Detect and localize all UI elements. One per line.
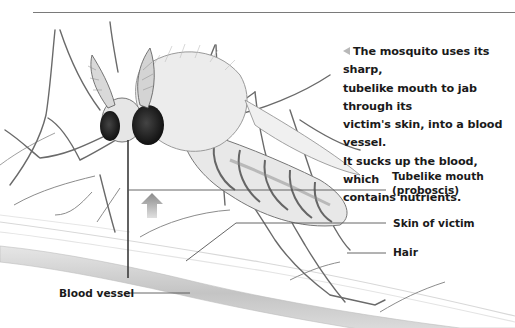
label-proboscis-line1: Tubelike mouth bbox=[392, 170, 484, 182]
mosquito-diagram: The mosquito uses its sharp, tubelike mo… bbox=[0, 0, 515, 328]
label-proboscis: Tubelike mouth (proboscis) bbox=[392, 169, 484, 197]
caption-line-3: victim's skin, into a blood vessel. bbox=[343, 118, 502, 149]
label-proboscis-line2: (proboscis) bbox=[392, 184, 459, 196]
caption-line-2: tubelike mouth to jab through its bbox=[343, 82, 477, 113]
label-skin: Skin of victim bbox=[393, 216, 475, 230]
label-hair: Hair bbox=[393, 245, 418, 259]
left-triangle-icon bbox=[343, 47, 350, 55]
label-blood-vessel: Blood vessel bbox=[59, 286, 134, 300]
up-arrow-icon bbox=[141, 193, 163, 218]
caption-line-1: The mosquito uses its sharp, bbox=[343, 45, 489, 76]
